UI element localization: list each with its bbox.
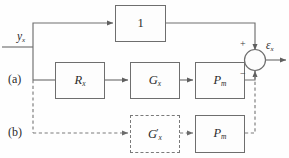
signal-label-input: yx	[17, 31, 25, 44]
row-label-b: (b)	[8, 126, 22, 138]
row-label-a: (a)	[8, 73, 21, 85]
summing-sign-plus: +	[240, 39, 246, 49]
wire-pm-to-sum	[245, 71, 255, 80]
block-pm-row-a-label: Pm	[213, 74, 226, 87]
summing-sign-minus: −	[240, 69, 246, 79]
summing-junction-circle	[245, 50, 266, 71]
block-pm-row-b: Pm	[195, 115, 245, 153]
block-unity-label: 1	[137, 17, 143, 30]
block-rx-label: Rx	[75, 74, 86, 87]
block-gx: Gx	[130, 62, 180, 99]
block-pm-row-a: Pm	[195, 62, 245, 99]
signal-label-output: εx	[266, 40, 274, 53]
wire-to-unity-block	[33, 23, 113, 47]
block-gx-prime-label: G′x	[148, 127, 162, 141]
block-pm-row-b-label: Pm	[213, 127, 226, 140]
block-diagram-figure: 1 Rx Gx Pm G′x Pm yx εx (a) (b) + −	[0, 0, 289, 158]
block-gx-label: Gx	[149, 74, 161, 87]
block-rx: Rx	[55, 62, 105, 99]
block-unity: 1	[115, 5, 166, 42]
block-gx-prime: G′x	[130, 115, 180, 153]
